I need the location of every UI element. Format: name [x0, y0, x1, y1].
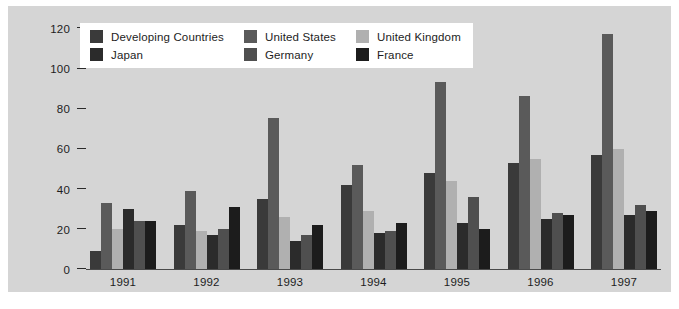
legend-item-developing-countries: Developing Countries	[90, 30, 224, 43]
y-axis-tick-20: 20	[44, 222, 86, 236]
bar	[508, 163, 519, 269]
y-axis-tick-label: 60	[44, 142, 70, 156]
bar	[591, 155, 602, 269]
y-axis-tick-mark	[77, 108, 86, 109]
y-axis-tick-40: 40	[44, 182, 86, 196]
bar	[479, 229, 490, 269]
legend-item-label: France	[377, 49, 414, 61]
legend-swatch-germany	[244, 48, 257, 61]
y-axis-tick-label: 0	[44, 263, 70, 277]
legend-item-japan: Japan	[90, 48, 224, 61]
legend-item-united-kingdom: United Kingdom	[356, 30, 461, 43]
bar	[352, 165, 363, 269]
legend-item-label: Developing Countries	[111, 31, 224, 43]
legend-item-united-states: United States	[244, 30, 336, 43]
legend-swatch-united-states	[244, 30, 257, 43]
x-axis-tick-label-1993: 1993	[257, 272, 323, 292]
legend-item-france: France	[356, 48, 461, 61]
bar	[446, 181, 457, 269]
chart-panel: 020406080100120 199119921993199419951996…	[8, 6, 671, 292]
bar	[552, 213, 563, 269]
bar	[145, 221, 156, 269]
x-axis-tick-label-1994: 1994	[341, 272, 407, 292]
x-axis-tick-labels: 1991199219931994199519961997	[86, 272, 661, 292]
y-axis-tick-mark	[77, 228, 86, 229]
bar	[290, 241, 301, 269]
bar	[624, 215, 635, 269]
legend-item-label: Germany	[265, 49, 313, 61]
bar	[134, 221, 145, 269]
y-axis-tick-60: 60	[44, 142, 86, 156]
bar	[257, 199, 268, 269]
bar	[385, 231, 396, 269]
y-axis-tick-mark	[77, 268, 86, 269]
bar	[229, 207, 240, 269]
bar	[112, 229, 123, 269]
x-axis-tick-label-1992: 1992	[174, 272, 240, 292]
bar	[207, 235, 218, 269]
bar	[435, 82, 446, 269]
legend-swatch-developing-countries	[90, 30, 103, 43]
bar	[602, 34, 613, 269]
legend-item-germany: Germany	[244, 48, 336, 61]
bar	[268, 118, 279, 269]
bar	[218, 229, 229, 269]
bar	[424, 173, 435, 269]
bar	[646, 211, 657, 269]
x-axis-tick-label-1997: 1997	[591, 272, 657, 292]
y-axis-tick-label: 120	[44, 22, 70, 36]
bar	[341, 185, 352, 269]
bar	[396, 223, 407, 269]
bar	[457, 223, 468, 269]
bar	[519, 96, 530, 269]
y-axis-tick-label: 40	[44, 183, 70, 197]
y-axis-tick-0: 0	[44, 262, 86, 276]
legend-item-label: United Kingdom	[377, 31, 461, 43]
bar	[541, 219, 552, 269]
bar	[563, 215, 574, 269]
bar	[312, 225, 323, 269]
bar	[468, 197, 479, 269]
bar	[123, 209, 134, 269]
chart-legend: Developing CountriesUnited StatesUnited …	[80, 23, 473, 68]
bar	[363, 211, 374, 269]
y-axis-tick-mark	[77, 148, 86, 149]
x-axis-tick-label-1996: 1996	[508, 272, 574, 292]
bar	[196, 231, 207, 269]
legend-swatch-france	[356, 48, 369, 61]
bar-group-1997	[591, 28, 657, 269]
x-axis-tick-label-1991: 1991	[90, 272, 156, 292]
bar	[174, 225, 185, 269]
y-axis-tick-label: 20	[44, 223, 70, 237]
bar	[635, 205, 646, 269]
bar	[613, 149, 624, 270]
y-axis-tick-label: 100	[44, 62, 70, 76]
bar	[90, 251, 101, 269]
y-axis: 020406080100120	[8, 6, 86, 292]
y-axis-tick-mark	[77, 188, 86, 189]
bar	[374, 233, 385, 269]
x-axis-baseline	[86, 269, 661, 270]
bar	[279, 217, 290, 269]
bar	[530, 159, 541, 269]
legend-item-label: United States	[265, 31, 336, 43]
bar	[185, 191, 196, 269]
y-axis-tick-80: 80	[44, 101, 86, 115]
legend-swatch-united-kingdom	[356, 30, 369, 43]
legend-item-label: Japan	[111, 49, 143, 61]
legend-swatch-japan	[90, 48, 103, 61]
y-axis-tick-label: 80	[44, 102, 70, 116]
x-axis-tick-label-1995: 1995	[424, 272, 490, 292]
bar	[301, 235, 312, 269]
bar-group-1996	[508, 28, 574, 269]
bar	[101, 203, 112, 269]
chart-screenshot: 020406080100120 199119921993199419951996…	[0, 0, 679, 309]
